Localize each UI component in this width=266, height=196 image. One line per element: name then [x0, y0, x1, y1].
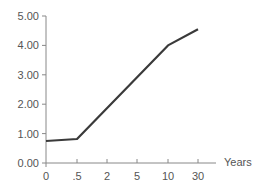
data-line — [46, 29, 198, 141]
y-tick-label: 2.00 — [18, 98, 39, 110]
x-tick-label: 5 — [134, 170, 140, 182]
x-tick-label: 0 — [43, 170, 49, 182]
x-axis-label: Years — [224, 156, 252, 168]
y-tick-label: 0.00 — [18, 157, 39, 169]
y-tick-label: 4.00 — [18, 39, 39, 51]
y-tick-labels: 0.00 1.00 2.00 3.00 4.00 5.00 — [18, 10, 39, 169]
y-tick-label: 1.00 — [18, 128, 39, 140]
y-tick-label: 5.00 — [18, 10, 39, 22]
y-tick-label: 3.00 — [18, 69, 39, 81]
x-tick-label: 2 — [104, 170, 110, 182]
x-tick-label: 10 — [162, 170, 174, 182]
x-tick-label: 30 — [192, 170, 204, 182]
y-ticks — [42, 16, 46, 163]
x-tick-labels: 0 .5 2 5 10 30 — [43, 170, 204, 182]
line-chart: 0.00 1.00 2.00 3.00 4.00 5.00 0 .5 2 5 1… — [0, 0, 266, 196]
x-tick-label: .5 — [72, 170, 81, 182]
